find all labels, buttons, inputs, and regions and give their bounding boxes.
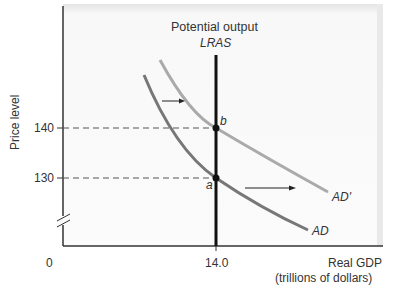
- x-tick-0: 0: [46, 256, 53, 270]
- y-tick-140: 140: [34, 121, 54, 135]
- lras-label: LRAS: [200, 36, 231, 50]
- ad-prime-curve: [160, 60, 328, 192]
- point-b-label: b: [220, 114, 227, 128]
- ad-prime-label: AD': [332, 190, 351, 204]
- point-a: [213, 175, 220, 182]
- x-tick-14: 14.0: [205, 256, 228, 270]
- y-tick-130: 130: [34, 171, 54, 185]
- ad-label: AD: [312, 224, 329, 238]
- chart-svg: [0, 0, 396, 291]
- point-b: [213, 125, 220, 132]
- x-axis-label-2: (trillions of dollars): [275, 271, 372, 285]
- potential-output-label: Potential output: [171, 20, 258, 34]
- x-axis-label-1: Real GDP: [328, 256, 382, 270]
- y-axis-label: Price level: [8, 95, 22, 150]
- ad-curve: [144, 75, 308, 230]
- point-a-label: a: [206, 178, 213, 192]
